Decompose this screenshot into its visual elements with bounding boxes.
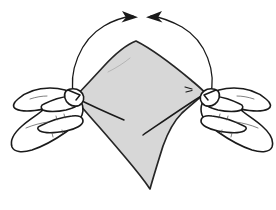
illustration-canvas: Line drawing: two hands grip the left an… — [0, 0, 276, 210]
illustration-svg — [0, 0, 276, 210]
right-hand-thumb — [200, 89, 219, 106]
left-hand-thumb — [65, 89, 84, 106]
